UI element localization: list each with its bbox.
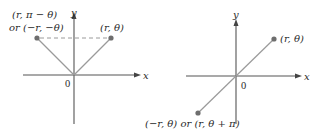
point-reflected [34, 35, 39, 40]
y-axis-arrow-icon [234, 19, 239, 26]
ray-original [74, 38, 111, 75]
y-axis-label: y [70, 7, 77, 18]
x-axis-arrow-icon [295, 74, 302, 79]
left-panel: (r, π − θ) or (−r, −θ) (r, θ) y x 0 [9, 7, 149, 124]
y-axis-label: y [232, 9, 239, 20]
x-axis-label: x [143, 70, 149, 81]
ray-reflected [37, 38, 74, 75]
origin-label: 0 [65, 78, 70, 89]
point-original [271, 36, 276, 41]
label-opposite: (−r, θ) or (r, θ + π) [145, 118, 240, 129]
label-reflected-line2: or (−r, −θ) [9, 22, 64, 33]
label-reflected-line1: (r, π − θ) [12, 9, 57, 20]
right-panel: (r, θ) (−r, θ) or (r, θ + π) y x 0 [145, 9, 310, 129]
x-axis-label: x [304, 71, 310, 82]
label-original: (r, θ) [100, 22, 124, 33]
origin-label: 0 [241, 80, 246, 91]
x-axis-arrow-icon [134, 73, 141, 78]
polar-symmetry-diagram: (r, π − θ) or (−r, −θ) (r, θ) y x 0 (r, … [0, 0, 311, 134]
point-opposite [195, 110, 200, 115]
label-original: (r, θ) [280, 33, 304, 44]
point-original [108, 35, 113, 40]
